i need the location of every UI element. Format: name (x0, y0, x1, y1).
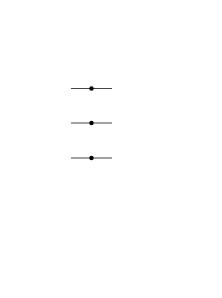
point-estimate (89, 156, 93, 160)
point-estimate (89, 86, 93, 90)
interval-plot (0, 0, 222, 298)
interval-row (71, 121, 112, 125)
interval-row (71, 86, 112, 90)
interval-row (71, 156, 112, 160)
point-estimate (89, 121, 93, 125)
